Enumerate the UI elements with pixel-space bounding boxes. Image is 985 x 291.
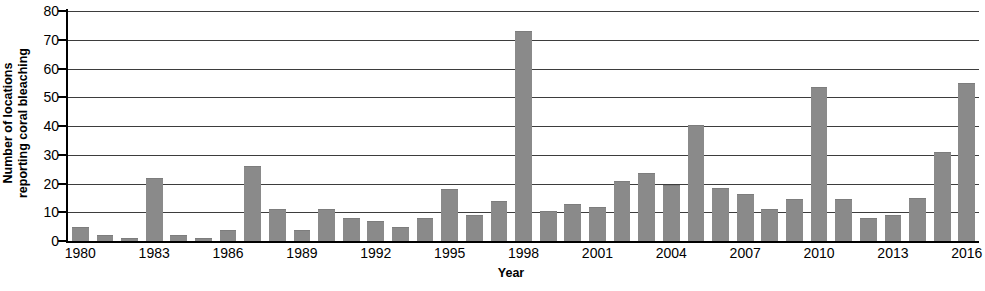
bar-slot <box>905 11 930 241</box>
bar <box>417 218 434 241</box>
x-axis-tick-label: 1989 <box>286 245 317 261</box>
bar <box>786 199 803 241</box>
bar <box>761 209 778 241</box>
x-axis-tick <box>758 245 783 267</box>
bar-slot <box>339 11 364 241</box>
bar-slot <box>364 11 389 241</box>
x-axis-tick: 1992 <box>364 245 389 267</box>
y-axis-tick-label: 10 <box>6 204 68 220</box>
y-axis-tick-label: 40 <box>6 118 68 134</box>
bar <box>441 189 458 241</box>
bar-slot <box>561 11 586 241</box>
bar <box>638 173 655 241</box>
bar <box>688 125 705 241</box>
bar-slot <box>511 11 536 241</box>
bar-slot <box>314 11 339 241</box>
bar-slot <box>265 11 290 241</box>
bar-slot <box>856 11 881 241</box>
bar-slot <box>216 11 241 241</box>
x-axis-tick-label: 2016 <box>951 245 982 261</box>
bar <box>97 235 114 241</box>
x-axis-tick: 2010 <box>807 245 832 267</box>
bar <box>269 209 286 241</box>
bar <box>220 230 237 242</box>
bar <box>540 211 557 241</box>
bar <box>885 215 902 241</box>
bar <box>244 166 261 241</box>
bar-slot <box>290 11 315 241</box>
bar-slot <box>708 11 733 241</box>
bar-slot <box>462 11 487 241</box>
x-axis-tick-label: 2010 <box>803 245 834 261</box>
bar-slot <box>93 11 118 241</box>
y-axis-tick-label: 30 <box>6 147 68 163</box>
bar-slot <box>782 11 807 241</box>
bar-slot <box>191 11 216 241</box>
bar-slot <box>437 11 462 241</box>
x-axis-tick <box>831 245 856 267</box>
bar <box>564 204 581 241</box>
x-axis-tick: 1983 <box>142 245 167 267</box>
bar-slot <box>536 11 561 241</box>
x-axis-tick-label: 1986 <box>212 245 243 261</box>
bar-slot <box>585 11 610 241</box>
y-axis-tick-label: 80 <box>6 3 68 19</box>
x-axis-tick: 2001 <box>585 245 610 267</box>
bar <box>614 181 631 241</box>
coral-bleaching-bar-chart: Number of locations reporting coral blea… <box>0 0 985 291</box>
bar <box>170 235 187 241</box>
bar-slot <box>388 11 413 241</box>
x-axis-tick-label: 2013 <box>877 245 908 261</box>
x-axis-tick: 2016 <box>955 245 980 267</box>
bar-slot <box>684 11 709 241</box>
bar <box>343 218 360 241</box>
bar <box>860 218 877 241</box>
x-axis-line <box>66 241 979 243</box>
bar <box>121 238 138 241</box>
y-axis-tick-label: 60 <box>6 61 68 77</box>
x-axis-tick <box>167 245 192 267</box>
bar <box>737 194 754 241</box>
bar <box>367 221 384 241</box>
bar <box>934 152 951 241</box>
x-axis-tick: 2004 <box>659 245 684 267</box>
x-axis-tick <box>93 245 118 267</box>
y-axis-tick-label: 0 <box>6 233 68 249</box>
x-axis-tick-label: 2007 <box>730 245 761 261</box>
bar-slot <box>733 11 758 241</box>
x-axis-tick <box>536 245 561 267</box>
bar <box>835 199 852 241</box>
x-axis-tick-label: 1992 <box>360 245 391 261</box>
bar <box>712 188 729 241</box>
bar <box>589 207 606 242</box>
bar-slot <box>142 11 167 241</box>
x-axis-tick-label: 1995 <box>434 245 465 261</box>
y-axis-tick-label: 20 <box>6 176 68 192</box>
y-axis-ticks: 01020304050607080 <box>0 11 68 241</box>
bar <box>958 83 975 241</box>
x-axis-tick-label: 2004 <box>656 245 687 261</box>
bar <box>663 185 680 241</box>
y-axis-tick-label: 50 <box>6 89 68 105</box>
bar <box>72 227 89 241</box>
bar <box>491 201 508 241</box>
x-axis-tick <box>240 245 265 267</box>
x-axis-tick <box>462 245 487 267</box>
bar <box>195 238 212 241</box>
bar <box>466 215 483 241</box>
bar-slot <box>807 11 832 241</box>
x-axis-tick <box>905 245 930 267</box>
x-axis-tick: 1995 <box>437 245 462 267</box>
x-axis-tick <box>610 245 635 267</box>
bar <box>294 230 311 242</box>
x-axis-tick: 1980 <box>68 245 93 267</box>
bar-slot <box>634 11 659 241</box>
y-axis-tick-label: 70 <box>6 32 68 48</box>
bar <box>318 209 335 241</box>
bar-slot <box>610 11 635 241</box>
bar-slot <box>413 11 438 241</box>
bar-slot <box>758 11 783 241</box>
x-axis-tick <box>388 245 413 267</box>
bar-slot <box>881 11 906 241</box>
bar-series <box>68 11 979 241</box>
